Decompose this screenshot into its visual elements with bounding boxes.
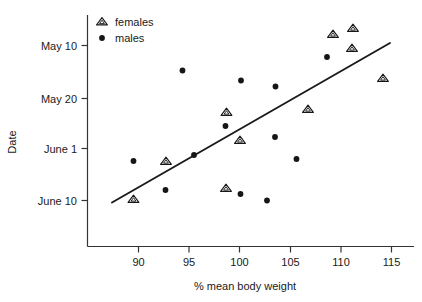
scatter-plot-figure: May 10 May 20 June 1 June 10 90 95 100 1… (0, 0, 422, 302)
regression-line (112, 43, 390, 203)
data-point-female (347, 44, 358, 51)
female-series-points (128, 24, 388, 202)
data-point-female (235, 136, 246, 143)
data-point-female (328, 30, 339, 37)
data-point-female (303, 105, 314, 112)
y-tick-label: June 10 (38, 195, 77, 207)
data-point-male (191, 152, 197, 158)
data-point-female (348, 24, 359, 31)
y-tick-label: June 1 (44, 143, 77, 155)
data-point-male (264, 198, 270, 204)
data-point-male (324, 54, 330, 60)
plot-svg: May 10 May 20 June 1 June 10 90 95 100 1… (0, 0, 422, 302)
data-point-female (161, 157, 172, 164)
x-tick-label: 115 (383, 256, 401, 268)
data-point-male (180, 68, 186, 74)
y-tick-marks (82, 46, 88, 201)
x-tick-label: 110 (332, 256, 350, 268)
x-tick-label: 105 (281, 256, 299, 268)
data-point-female (221, 184, 232, 191)
legend-label-males: males (115, 32, 145, 44)
y-tick-label: May 10 (41, 40, 77, 52)
data-point-male (273, 84, 279, 90)
triangle-outline-icon (97, 18, 108, 25)
data-point-female (221, 108, 232, 115)
data-point-female (378, 74, 389, 81)
axis-group (88, 15, 415, 247)
y-axis-title: Date (6, 130, 18, 153)
legend-entry-males: males (99, 32, 145, 44)
data-point-female (128, 195, 139, 202)
legend-entry-females: females (97, 16, 154, 28)
male-series-points (131, 54, 330, 203)
data-point-male (238, 78, 244, 84)
data-point-male (163, 187, 169, 193)
x-tick-label: 100 (230, 256, 248, 268)
x-axis-title: % mean body weight (194, 280, 296, 292)
x-tick-marks (139, 247, 392, 253)
x-tick-label: 95 (183, 256, 195, 268)
data-point-male (131, 158, 137, 164)
y-tick-labels: May 10 May 20 June 1 June 10 (38, 40, 77, 207)
x-tick-label: 90 (132, 256, 144, 268)
data-point-male (238, 191, 244, 197)
x-tick-labels: 90 95 100 105 110 115 (132, 256, 400, 268)
data-point-male (223, 123, 229, 129)
legend: females males (97, 16, 154, 45)
y-tick-label: May 20 (41, 93, 77, 105)
filled-circle-icon (99, 35, 105, 41)
data-point-male (272, 134, 278, 140)
legend-label-females: females (115, 16, 154, 28)
data-point-male (294, 156, 300, 162)
